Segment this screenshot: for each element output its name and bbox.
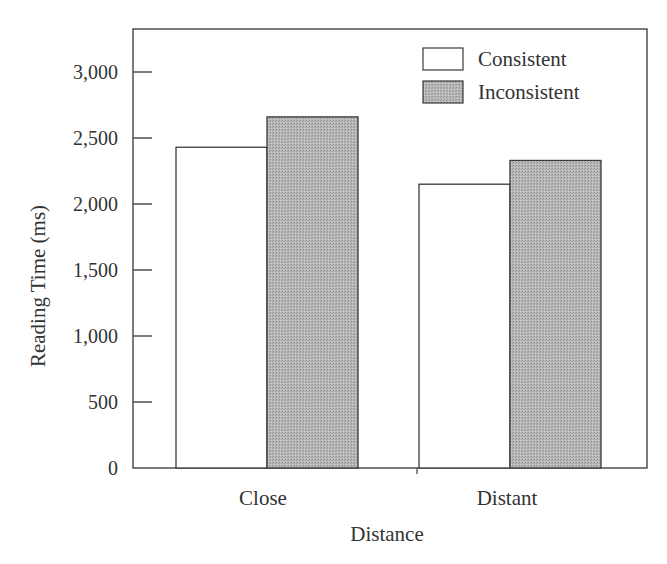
x-axis-title: Distance (350, 522, 423, 546)
y-tick-label: 0 (108, 457, 118, 479)
bars (176, 117, 601, 468)
bar-chart: 05001,0001,5002,0002,5003,000 CloseDista… (0, 0, 667, 564)
x-axis: CloseDistant (239, 468, 537, 510)
bar-distant-inconsistent (510, 160, 601, 468)
x-category-label: Close (239, 486, 287, 510)
y-tick-label: 500 (88, 391, 118, 413)
x-category-label: Distant (477, 486, 538, 510)
legend: ConsistentInconsistent (423, 47, 580, 104)
bar-close-inconsistent (267, 117, 358, 468)
y-tick-label: 1,500 (73, 259, 118, 281)
bar-distant-consistent (419, 184, 510, 468)
y-axis-title: Reading Time (ms) (26, 205, 50, 367)
legend-swatch-inconsistent (423, 81, 463, 103)
y-tick-label: 2,000 (73, 193, 118, 215)
y-axis: 05001,0001,5002,0002,5003,000 (73, 61, 152, 479)
y-tick-label: 3,000 (73, 61, 118, 83)
legend-label-consistent: Consistent (478, 47, 567, 71)
y-tick-label: 1,000 (73, 325, 118, 347)
y-tick-label: 2,500 (73, 127, 118, 149)
legend-swatch-consistent (423, 48, 463, 70)
bar-close-consistent (176, 147, 267, 468)
legend-label-inconsistent: Inconsistent (478, 80, 580, 104)
